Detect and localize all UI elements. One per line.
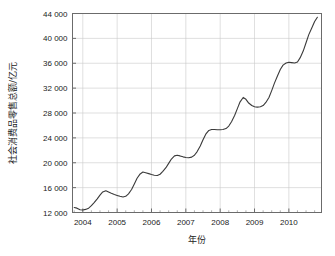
x-tick-label: 2009	[246, 218, 264, 227]
y-tick-label: 44 000	[43, 10, 68, 19]
y-tick-label: 28 000	[43, 109, 68, 118]
y-tick-label: 12 000	[43, 209, 68, 218]
y-tick-label: 32 000	[43, 84, 68, 93]
x-tick-label: 2004	[74, 218, 92, 227]
y-tick-label: 16 000	[43, 184, 68, 193]
y-tick-label: 20 000	[43, 159, 68, 168]
chart-container: 12 00016 00020 00024 00028 00032 00036 0…	[0, 0, 335, 256]
y-tick-label: 36 000	[43, 59, 68, 68]
x-tick-label: 2008	[211, 218, 229, 227]
x-tick-label: 2005	[108, 218, 126, 227]
x-tick-label: 2007	[177, 218, 195, 227]
y-axis-title: 社会消费品零售总额/亿元	[7, 62, 18, 164]
line-chart: 12 00016 00020 00024 00028 00032 00036 0…	[0, 0, 335, 256]
x-tick-label: 2006	[143, 218, 161, 227]
x-axis-title: 年份	[188, 234, 206, 245]
y-tick-label: 40 000	[43, 34, 68, 43]
y-axis-tick-labels: 12 00016 00020 00024 00028 00032 00036 0…	[43, 10, 68, 218]
x-tick-label: 2010	[280, 218, 298, 227]
y-tick-label: 24 000	[43, 134, 68, 143]
